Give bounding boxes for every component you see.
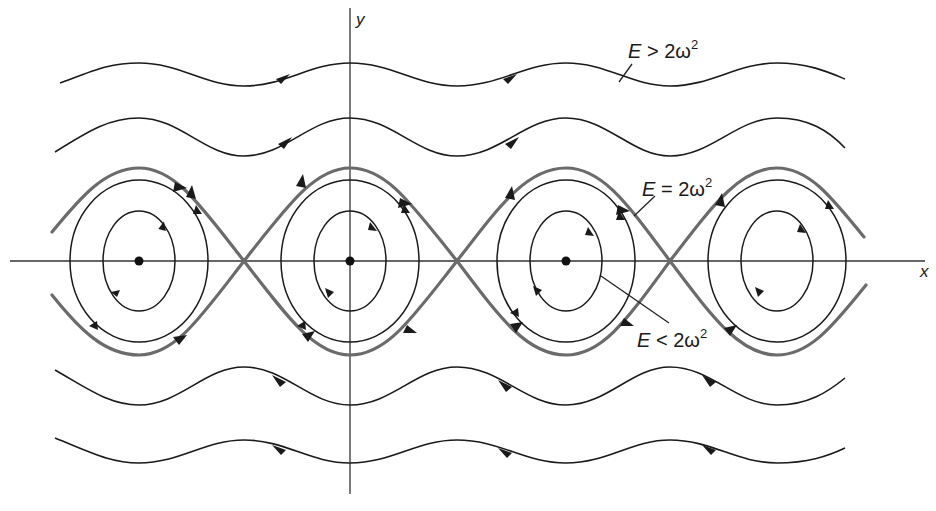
- label-closed-orbits: E < 2ω2: [637, 327, 707, 350]
- center-dot: [346, 257, 355, 266]
- open-orbits-bottom: [55, 367, 845, 463]
- relation: >: [647, 40, 659, 62]
- rhs: 2ω: [673, 329, 700, 351]
- relation: =: [661, 178, 673, 200]
- phase-portrait: [0, 0, 936, 511]
- exponent: 2: [705, 175, 712, 190]
- label-separatrix: E = 2ω2: [642, 176, 712, 199]
- energy-symbol: E: [628, 40, 641, 62]
- open-orbit-arrows-top: [276, 74, 519, 149]
- label-open-orbits: E > 2ω2: [628, 38, 698, 61]
- relation: <: [656, 329, 668, 351]
- exponent: 2: [700, 326, 707, 341]
- energy-symbol: E: [642, 178, 655, 200]
- center-dot: [135, 257, 144, 266]
- x-axis-label: x: [920, 262, 929, 282]
- energy-symbol: E: [637, 329, 650, 351]
- center-dot: [562, 257, 571, 266]
- rhs: 2ω: [678, 178, 705, 200]
- figure-caption-cutoff: [150, 500, 936, 511]
- open-orbits-top: [55, 63, 845, 156]
- exponent: 2: [691, 37, 698, 52]
- y-axis-label: y: [356, 10, 365, 30]
- rhs: 2ω: [664, 40, 691, 62]
